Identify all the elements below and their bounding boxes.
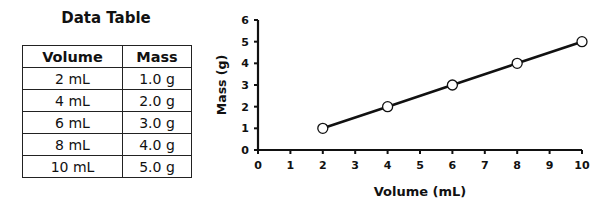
y-tick-label: 3 — [241, 79, 249, 92]
x-tick-label: 4 — [384, 159, 392, 172]
data-point-marker — [318, 123, 328, 133]
y-tick-label: 0 — [241, 144, 249, 157]
x-tick-label: 10 — [574, 159, 590, 172]
x-tick-label: 2 — [319, 159, 327, 172]
x-tick-label: 6 — [449, 159, 457, 172]
y-axis-label: Mass (g) — [214, 55, 229, 115]
data-point-marker — [383, 102, 393, 112]
data-point-marker — [512, 58, 522, 68]
data-series — [318, 37, 587, 134]
x-tick-label: 7 — [481, 159, 489, 172]
x-tick-label: 5 — [416, 159, 424, 172]
y-tick-label: 1 — [241, 122, 249, 135]
data-point-marker — [577, 37, 587, 47]
x-axis-label: Volume (mL) — [374, 184, 467, 199]
chart-axes: 0123456789100123456 — [241, 14, 590, 172]
x-tick-label: 3 — [351, 159, 359, 172]
y-tick-label: 2 — [241, 101, 249, 114]
y-tick-label: 5 — [241, 36, 249, 49]
y-tick-label: 4 — [241, 57, 249, 70]
x-tick-label: 8 — [513, 159, 521, 172]
x-tick-label: 1 — [287, 159, 295, 172]
line-chart: 0123456789100123456 Volume (mL) Mass (g) — [0, 0, 604, 213]
y-tick-label: 6 — [241, 14, 249, 27]
x-tick-label: 9 — [546, 159, 554, 172]
data-point-marker — [447, 80, 457, 90]
x-tick-label: 0 — [254, 159, 262, 172]
